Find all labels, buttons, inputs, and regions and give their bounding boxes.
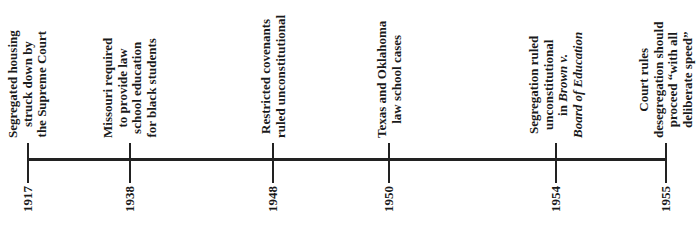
year-label: 1917 — [21, 186, 35, 212]
event-line: Segregated housing — [6, 30, 21, 138]
year-label: 1948 — [266, 186, 280, 212]
tick-1917 — [27, 143, 29, 183]
event-label: Segregated housing struck down by the Su… — [28, 30, 72, 138]
event-label: Restricted covenants ruled unconstitutio… — [273, 15, 302, 138]
event-line: proceed “with all — [666, 22, 681, 138]
event-line: ruled unconstitutional — [273, 15, 288, 138]
year-label: 1954 — [549, 186, 563, 212]
timeline-axis-line — [28, 158, 667, 161]
tick-1954 — [555, 143, 557, 183]
event-line: struck down by — [21, 30, 36, 138]
event-label: Court rules desegregation should proceed… — [666, 22, 700, 138]
event-line-italic: Board of Education — [571, 32, 586, 138]
event-line: Texas and Oklahoma — [375, 21, 390, 138]
event-line: Missouri required — [101, 38, 116, 138]
year-label: 1938 — [123, 186, 137, 212]
event-line: unconstitutional — [542, 32, 557, 138]
case-name-italic: Board of Education — [570, 32, 585, 138]
tick-1948 — [272, 143, 274, 183]
event-line: Restricted covenants — [259, 15, 274, 138]
event-label: Texas and Oklahoma law school cases — [389, 21, 418, 138]
event-line: Court rules — [637, 22, 652, 138]
event-line: desegregation should — [652, 22, 667, 138]
event-line: the Supreme Court — [35, 30, 50, 138]
event-label: Missouri required to provide law school … — [130, 38, 188, 138]
tick-1938 — [129, 143, 131, 183]
event-label: Segregation ruled unconstitutional in Br… — [556, 32, 614, 138]
event-line: to provide law — [116, 38, 131, 138]
case-name-italic: Brown v. — [555, 54, 570, 102]
tick-1955 — [665, 143, 667, 183]
event-line: for black students — [145, 38, 160, 138]
event-line: deliberate speed” — [681, 22, 696, 138]
event-line-with-italic: in Brown v. — [556, 32, 571, 138]
event-line: law school cases — [389, 21, 404, 138]
year-label: 1955 — [659, 186, 673, 212]
event-line: Segregation ruled — [527, 32, 542, 138]
year-label: 1950 — [382, 186, 396, 212]
tick-1950 — [388, 143, 390, 183]
event-line: school education — [130, 38, 145, 138]
